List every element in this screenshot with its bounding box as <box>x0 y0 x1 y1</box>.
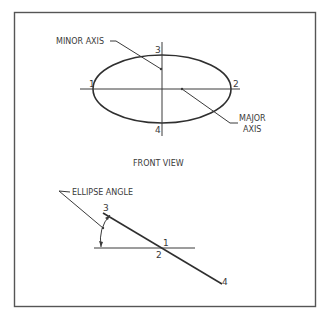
major-axis-label-line2: AXIS <box>243 125 261 134</box>
front-point-4: 4 <box>155 125 161 135</box>
diagram-labels: MINOR AXIS MAJOR AXIS 3 1 2 4 FRONT VIEW… <box>0 0 326 315</box>
major-axis-label-line1: MAJOR <box>239 114 266 123</box>
edge-point-4: 4 <box>222 277 228 287</box>
front-point-1: 1 <box>89 79 95 89</box>
front-point-2: 2 <box>233 79 239 89</box>
front-point-3: 3 <box>155 45 161 55</box>
edge-point-1: 1 <box>163 238 169 248</box>
ellipse-angle-label: ELLIPSE ANGLE <box>72 188 133 197</box>
edge-point-3: 3 <box>103 203 109 213</box>
front-view-title: FRONT VIEW <box>133 159 184 168</box>
minor-axis-label: MINOR AXIS <box>56 37 104 46</box>
edge-point-2: 2 <box>156 250 162 260</box>
